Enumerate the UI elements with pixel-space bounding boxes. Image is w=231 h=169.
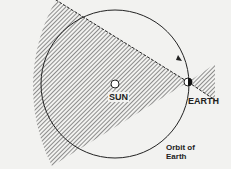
earth-label: EARTH — [188, 96, 219, 106]
shadow-cone-left — [33, 0, 188, 166]
sun-label: SUN — [108, 92, 129, 102]
sun-icon — [111, 80, 119, 88]
orbit-shadow-diagram — [0, 0, 231, 169]
orbit-label-line2: Earth — [166, 152, 186, 162]
orbit-direction-arrow-icon — [176, 55, 182, 61]
diagram-canvas: SUN EARTH Orbit of Earth — [0, 0, 231, 169]
